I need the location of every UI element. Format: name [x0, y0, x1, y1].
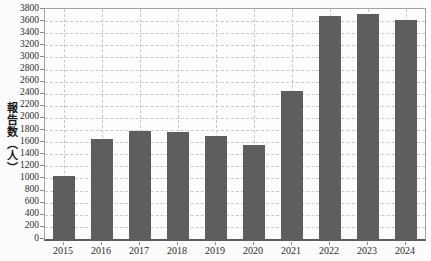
y-tick-mark — [40, 153, 44, 154]
y-tick-mark — [40, 105, 44, 106]
y-tick-mark — [40, 81, 44, 82]
x-tick-label: 2017 — [129, 245, 149, 256]
y-tick-mark — [40, 165, 44, 166]
x-tick-label: 2022 — [319, 245, 339, 256]
y-tick-label: 1800 — [0, 124, 39, 135]
y-tick-mark — [40, 214, 44, 215]
y-tick-label: 2000 — [0, 111, 39, 122]
x-tick-label: 2020 — [243, 245, 263, 256]
bar-2024 — [395, 20, 417, 239]
y-tick-mark — [40, 93, 44, 94]
y-tick-label: 1400 — [0, 148, 39, 159]
y-tick-label: 200 — [0, 220, 39, 231]
y-tick-label: 3400 — [0, 27, 39, 38]
y-tick-mark — [40, 141, 44, 142]
y-tick-label: 2400 — [0, 87, 39, 98]
y-tick-mark — [40, 177, 44, 178]
y-tick-label: 2800 — [0, 63, 39, 74]
y-tick-label: 3800 — [0, 3, 39, 14]
y-tick-mark — [40, 238, 44, 239]
bar-2022 — [319, 16, 341, 239]
bar-2018 — [167, 132, 189, 239]
y-tick-mark — [40, 32, 44, 33]
y-tick-label: 1600 — [0, 136, 39, 147]
y-tick-label: 800 — [0, 184, 39, 195]
y-tick-label: 3000 — [0, 51, 39, 62]
y-tick-mark — [40, 8, 44, 9]
y-tick-label: 1200 — [0, 160, 39, 171]
y-tick-mark — [40, 20, 44, 21]
y-tick-label: 3600 — [0, 15, 39, 26]
y-tick-label: 400 — [0, 208, 39, 219]
y-tick-mark — [40, 117, 44, 118]
bar-2015 — [53, 176, 75, 239]
y-tick-label: 600 — [0, 196, 39, 207]
y-tick-mark — [40, 202, 44, 203]
x-tick-label: 2015 — [53, 245, 73, 256]
y-tick-mark — [40, 129, 44, 130]
y-tick-label: 2600 — [0, 75, 39, 86]
x-tick-label: 2016 — [91, 245, 111, 256]
bar-2016 — [91, 139, 113, 239]
y-tick-mark — [40, 56, 44, 57]
y-tick-mark — [40, 69, 44, 70]
y-tick-label: 1000 — [0, 172, 39, 183]
y-tick-label: 3200 — [0, 39, 39, 50]
plot-area — [44, 8, 426, 241]
x-tick-label: 2019 — [205, 245, 225, 256]
y-tick-label: 0 — [0, 233, 39, 244]
x-tick-label: 2021 — [281, 245, 301, 256]
bar-2020 — [243, 145, 265, 239]
bar-2019 — [205, 136, 227, 239]
bar-2023 — [357, 14, 379, 239]
y-tick-mark — [40, 226, 44, 227]
bar-2021 — [281, 91, 303, 239]
x-tick-label: 2024 — [395, 245, 415, 256]
x-tick-label: 2018 — [167, 245, 187, 256]
y-tick-mark — [40, 44, 44, 45]
bar-chart-figure: 報告数（人） 020040060080010001200140016001800… — [0, 0, 431, 261]
y-tick-label: 2200 — [0, 99, 39, 110]
x-tick-label: 2023 — [357, 245, 377, 256]
bar-2017 — [129, 131, 151, 239]
y-tick-mark — [40, 190, 44, 191]
